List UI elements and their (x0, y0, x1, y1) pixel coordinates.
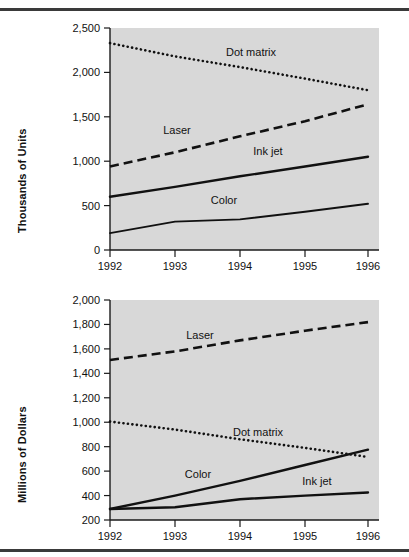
x-tick-labels-units: 1992 1993 1994 1995 1996 (98, 260, 380, 272)
y-ticks-units (104, 28, 110, 250)
dollars-svg: 200 400 600 800 1,000 1,200 1,400 1,600 … (0, 288, 409, 543)
series-label-dot-matrix-units: Dot matrix (226, 46, 277, 58)
y-tick-label: 2,000 (72, 294, 100, 306)
chart-thousands-of-units: Thousands of Units 0 500 1,000 1,500 (0, 18, 409, 273)
series-label-color-dollars: Color (185, 468, 212, 480)
y-tick-label: 1,200 (72, 392, 100, 404)
y-tick-labels-units: 0 500 1,000 1,500 2,000 2,500 (72, 22, 100, 256)
x-tick-label: 1993 (163, 530, 187, 542)
chart-millions-of-dollars: Millions of Dollars 200 400 600 (0, 288, 409, 543)
units-svg: 0 500 1,000 1,500 2,000 2,500 1992 1993 … (0, 18, 409, 273)
x-ticks-units (110, 250, 368, 257)
y-tick-label: 2,500 (72, 22, 100, 34)
x-tick-label: 1992 (98, 260, 122, 272)
series-label-ink-jet-dollars: Ink jet (302, 475, 331, 487)
x-tick-label: 1995 (293, 530, 317, 542)
y-tick-label: 200 (82, 514, 100, 526)
y-tick-label: 500 (82, 200, 100, 212)
x-ticks-dollars (110, 520, 368, 527)
series-label-laser-dollars: Laser (186, 329, 214, 341)
y-tick-label: 1,500 (72, 111, 100, 123)
series-label-laser-units: Laser (163, 124, 191, 136)
x-tick-label: 1994 (228, 530, 252, 542)
y-tick-label: 1,000 (72, 155, 100, 167)
plot-background-dollars (110, 300, 379, 520)
x-tick-label: 1995 (293, 260, 317, 272)
y-tick-label: 800 (82, 441, 100, 453)
y-ticks-dollars (104, 300, 110, 520)
y-tick-label: 600 (82, 465, 100, 477)
y-tick-label: 1,400 (72, 367, 100, 379)
bottom-horizontal-rule (0, 549, 409, 552)
plot-area-dollars: 200 400 600 800 1,000 1,200 1,400 1,600 … (0, 288, 409, 543)
series-label-color-units: Color (211, 194, 238, 206)
y-tick-label: 1,600 (72, 343, 100, 355)
series-label-ink-jet-units: Ink jet (253, 145, 282, 157)
x-tick-label: 1996 (356, 530, 380, 542)
y-tick-labels-dollars: 200 400 600 800 1,000 1,200 1,400 1,600 … (72, 294, 100, 526)
y-tick-label: 400 (82, 490, 100, 502)
x-tick-labels-dollars: 1992 1993 1994 1995 1996 (98, 530, 380, 542)
y-tick-label: 1,000 (72, 416, 100, 428)
x-tick-label: 1996 (356, 260, 380, 272)
y-tick-label: 0 (94, 244, 100, 256)
y-tick-label: 2,000 (72, 66, 100, 78)
plot-background-units (110, 28, 379, 250)
series-label-dot-matrix-dollars: Dot matrix (233, 426, 284, 438)
x-tick-label: 1993 (163, 260, 187, 272)
x-tick-label: 1992 (98, 530, 122, 542)
x-tick-label: 1994 (228, 260, 252, 272)
plot-area-units: 0 500 1,000 1,500 2,000 2,500 1992 1993 … (0, 18, 409, 273)
y-tick-label: 1,800 (72, 318, 100, 330)
top-horizontal-rule (0, 8, 409, 11)
